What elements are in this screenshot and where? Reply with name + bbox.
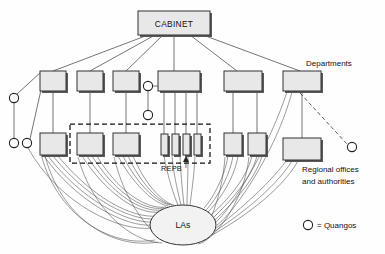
node-dept3[interactable] <box>113 71 141 93</box>
diagram-canvas: CABINET <box>0 0 385 254</box>
quango-circle-left-top[interactable] <box>9 93 18 102</box>
quango-circle-left-bottom[interactable] <box>9 138 18 147</box>
link-agency1-las-b <box>48 156 154 222</box>
dept1-box[interactable] <box>40 71 66 91</box>
link-agency5-las-a <box>211 156 252 215</box>
link-left-las-sweep-c <box>78 157 162 243</box>
link-agency2-las-a <box>82 156 160 212</box>
repb4-box[interactable] <box>194 134 201 155</box>
node-agency3[interactable] <box>113 133 141 157</box>
legend-quango-circle-icon <box>303 220 312 229</box>
agency6-box[interactable] <box>283 138 321 160</box>
organisation-diagram: CABINET <box>0 0 385 254</box>
agency3-box[interactable] <box>113 133 139 155</box>
node-dept6[interactable] <box>283 71 323 93</box>
node-dept5[interactable] <box>224 71 264 93</box>
repb-bars <box>161 134 203 157</box>
repb-label: REPB <box>161 164 182 173</box>
cabinet-to-departments-links <box>53 35 300 71</box>
quango-circle-left-bottom-2[interactable] <box>22 138 31 147</box>
dept3-box[interactable] <box>113 71 139 91</box>
dept5-box[interactable] <box>224 71 262 91</box>
node-repb1[interactable] <box>161 134 170 157</box>
agency5-box[interactable] <box>248 133 266 155</box>
link-cabinet-dept3 <box>126 35 163 71</box>
link-dept6-las-b <box>217 92 292 225</box>
agency1-box[interactable] <box>40 133 66 155</box>
node-agency5[interactable] <box>248 133 268 157</box>
regional-offices-label-line2: and authorities <box>302 177 354 186</box>
dept6-box[interactable] <box>283 71 321 91</box>
node-repb4[interactable] <box>194 134 203 157</box>
cabinet-label: CABINET <box>155 19 193 29</box>
department-to-agency-links <box>53 91 302 138</box>
node-dept4[interactable] <box>158 71 202 93</box>
agency2-box[interactable] <box>77 133 103 155</box>
link-agency2-las-b <box>87 156 162 210</box>
repb1-box[interactable] <box>161 134 168 155</box>
node-dept1[interactable] <box>40 71 68 93</box>
repb3-box[interactable] <box>183 134 190 155</box>
agency-row <box>40 133 323 162</box>
department-row <box>40 71 323 93</box>
node-las[interactable]: LAs <box>150 205 216 245</box>
node-agency6[interactable] <box>283 138 323 162</box>
repb2-box[interactable] <box>172 134 179 155</box>
link-repb4-las <box>187 157 188 205</box>
link-cabinet-dept6 <box>203 35 300 71</box>
link-agency5-las-b <box>213 156 257 218</box>
quango-circle-mid-bottom[interactable] <box>143 110 152 119</box>
dept2-box[interactable] <box>77 71 103 91</box>
node-agency2[interactable] <box>77 133 105 157</box>
dept4-box[interactable] <box>158 71 200 91</box>
node-dept2[interactable] <box>77 71 105 93</box>
link-agency1-las-a <box>44 156 153 225</box>
quango-circle-right[interactable] <box>347 142 356 151</box>
link-agency2-las-c <box>92 156 164 208</box>
las-label: LAs <box>176 220 191 230</box>
regional-offices-label-line1: Regional offices <box>302 165 359 174</box>
link-cabinet-dept5 <box>190 35 237 71</box>
legend-label: = Quangos <box>317 221 356 230</box>
link-quango-left-top-dept1 <box>17 72 41 94</box>
departments-label: Departments <box>306 59 352 68</box>
link-left-las-sweep-a <box>40 150 155 241</box>
node-agency1[interactable] <box>40 133 68 157</box>
quango-circle-mid-top[interactable] <box>143 81 152 90</box>
link-dept6-quango-right-dashed <box>300 93 347 144</box>
agency4-box[interactable] <box>224 133 242 155</box>
link-cabinet-dept1 <box>53 35 148 71</box>
node-cabinet[interactable]: CABINET <box>138 11 212 37</box>
node-repb3[interactable] <box>183 134 192 157</box>
node-repb2[interactable] <box>172 134 181 157</box>
node-agency4[interactable] <box>224 133 244 157</box>
legend: = Quangos <box>303 220 356 230</box>
